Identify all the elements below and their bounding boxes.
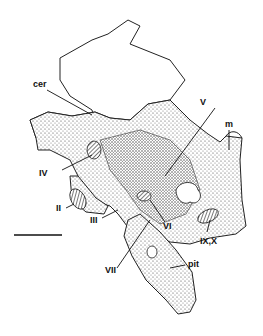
label-vi: VI: [163, 222, 172, 231]
label-v: V: [200, 98, 206, 107]
label-iii: III: [90, 216, 98, 225]
figure: cer IV II III V m VI VII IX,X pit: [0, 0, 263, 336]
label-vii: VII: [105, 266, 116, 275]
label-pit: pit: [188, 260, 199, 269]
label-iv: IV: [39, 169, 48, 178]
label-cer: cer: [33, 80, 47, 89]
label-ix-x: IX,X: [200, 237, 217, 246]
label-ii: II: [56, 204, 61, 213]
label-m: m: [225, 120, 233, 129]
